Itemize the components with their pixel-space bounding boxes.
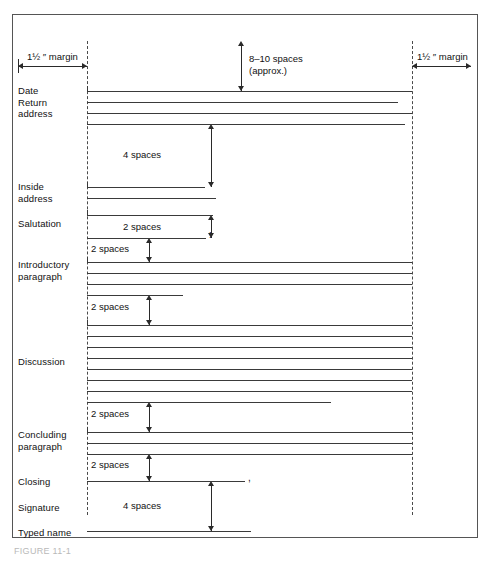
- text-line-concluding-paragraph: [87, 454, 412, 455]
- text-line-salutation: [87, 215, 213, 216]
- section-label-salutation: Salutation: [18, 218, 88, 230]
- text-line-typed-name: [87, 531, 251, 532]
- text-line-cap: [87, 257, 88, 262]
- section-label-typed-name: Typed name: [18, 527, 88, 539]
- text-line-discussion: [87, 391, 412, 392]
- text-line-closing: [87, 481, 245, 482]
- text-line-concluding-paragraph: [87, 443, 412, 444]
- section-label-inside-address: Insideaddress: [18, 181, 88, 204]
- diagram-frame: 1½ ″ margin 1½ ″ margin 8–10 spaces (app…: [12, 14, 478, 538]
- section-label-closing: Closing: [18, 476, 88, 488]
- inside-to-salutation-label: 2 spaces: [123, 221, 161, 233]
- text-line-introductory-paragraph: [87, 295, 183, 296]
- text-line-concluding-paragraph: [87, 432, 412, 433]
- text-line-discussion: [87, 369, 412, 370]
- closing-to-typed-name-label: 4 spaces: [123, 500, 161, 512]
- text-line-discussion: [87, 358, 412, 359]
- discussion-to-concluding-label: 2 spaces: [91, 408, 129, 420]
- intro-to-discussion-label: 2 spaces: [91, 301, 129, 313]
- right-margin-guide: [412, 41, 413, 515]
- punctuation-mark: :: [209, 230, 212, 240]
- text-line-discussion: [87, 380, 412, 381]
- text-line-salutation: [87, 238, 206, 239]
- text-line-inside-address: [87, 198, 216, 199]
- salutation-to-body-label: 2 spaces: [91, 243, 129, 255]
- top-spacing-label-line2: (approx.): [249, 65, 287, 77]
- text-line-date-return-address: [87, 91, 412, 92]
- section-label-concluding-paragraph: Concludingparagraph: [18, 429, 88, 452]
- concluding-to-closing-label: 2 spaces: [91, 459, 129, 471]
- text-line-introductory-paragraph: [87, 273, 412, 274]
- section-label-discussion: Discussion: [18, 356, 88, 368]
- top-spacing-label-line1: 8–10 spaces: [249, 53, 303, 65]
- section-label-introductory-paragraph: Introductoryparagraph: [18, 259, 88, 282]
- text-line-inside-address: [87, 187, 205, 188]
- right-margin-label: 1½ ″ margin: [417, 51, 468, 63]
- section-label-date-return-address: DateReturnaddress: [18, 85, 88, 120]
- text-line-discussion: [87, 325, 412, 326]
- text-line-date-return-address: [87, 102, 398, 103]
- text-line-cap: [87, 86, 88, 91]
- left-margin-label: 1½ ″ margin: [27, 51, 78, 63]
- punctuation-mark: ,: [248, 473, 251, 483]
- text-line-date-return-address: [87, 124, 405, 125]
- section-label-signature: Signature: [18, 502, 88, 514]
- text-line-cap: [87, 427, 88, 432]
- text-line-discussion: [87, 347, 412, 348]
- text-line-date-return-address: [87, 113, 412, 114]
- diagram-canvas: 1½ ″ margin 1½ ″ margin 8–10 spaces (app…: [13, 15, 477, 537]
- figure-caption: FIGURE 11-1: [14, 546, 71, 556]
- text-line-introductory-paragraph: [87, 262, 412, 263]
- text-line-cap: [87, 320, 88, 325]
- date-to-inside-label: 4 spaces: [123, 149, 161, 161]
- text-line-discussion: [87, 402, 331, 403]
- text-line-cap: [87, 182, 88, 187]
- text-line-introductory-paragraph: [87, 284, 412, 285]
- text-line-cap: [87, 210, 88, 215]
- text-line-discussion: [87, 336, 412, 337]
